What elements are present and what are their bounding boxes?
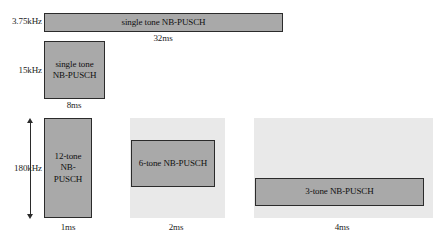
block-label-3p75khz: single tone NB-PUSCH <box>121 17 205 29</box>
block-label-15khz-line2: NB-PUSCH <box>53 70 97 82</box>
block-label-12-tone-line1: 12-tone <box>55 151 82 163</box>
block-label-6-tone: 6-tone NB-PUSCH <box>139 158 207 170</box>
block-3p75khz-single-tone: single tone NB-PUSCH <box>44 13 283 32</box>
block-3-tone-nb-pusch: 3-tone NB-PUSCH <box>255 178 424 206</box>
axis-label-15khz: 15kHz <box>4 65 42 75</box>
block-label-15khz-line1: single tone <box>55 59 93 71</box>
block-label-12-tone-line3: PUSCH <box>54 174 83 186</box>
time-label-8ms: 8ms <box>54 100 94 110</box>
block-6-tone-nb-pusch: 6-tone NB-PUSCH <box>131 140 215 187</box>
block-label-12-tone-line2: NB- <box>60 162 75 174</box>
time-label-1ms: 1ms <box>48 222 88 232</box>
axis-arrow-180khz-bottom <box>27 214 33 219</box>
time-label-2ms: 2ms <box>156 222 196 232</box>
time-label-32ms: 32ms <box>143 33 183 43</box>
block-12-tone-nb-pusch: 12-tone NB- PUSCH <box>44 118 92 218</box>
block-15khz-single-tone: single tone NB-PUSCH <box>44 41 105 99</box>
nb-pusch-resource-unit-diagram: 3.75kHz single tone NB-PUSCH 32ms 15kHz … <box>0 0 433 247</box>
axis-label-180khz: 180kHz <box>0 163 42 173</box>
time-label-4ms: 4ms <box>322 222 362 232</box>
block-label-3-tone: 3-tone NB-PUSCH <box>305 186 373 198</box>
axis-line-180khz <box>30 121 31 215</box>
axis-label-3p75khz: 3.75kHz <box>4 16 42 26</box>
